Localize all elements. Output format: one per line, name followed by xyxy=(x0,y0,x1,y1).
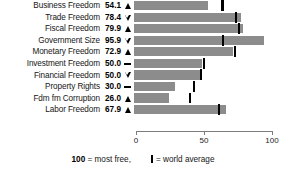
trend-down-icon xyxy=(121,36,134,45)
bar-track xyxy=(134,58,286,70)
chart-rows: Business Freedom54.1Trade Freedom78.4Fis… xyxy=(0,0,286,115)
category-value: 54.1 xyxy=(103,1,121,10)
category-value: 95.9 xyxy=(103,36,121,45)
axis-tick-label: 50 xyxy=(200,136,209,145)
value-bar xyxy=(134,1,208,10)
world-average-tick xyxy=(221,0,223,11)
freedom-index-bar-chart: Business Freedom54.1Trade Freedom78.4Fis… xyxy=(0,0,286,173)
legend-most-free-text: = most free, xyxy=(87,155,130,164)
world-average-marker-icon xyxy=(151,155,153,163)
bar-track xyxy=(134,12,286,24)
bar-track xyxy=(134,0,286,12)
bar-track xyxy=(134,104,286,116)
category-value: 79.9 xyxy=(103,24,121,33)
value-bar xyxy=(134,70,202,79)
world-average-tick xyxy=(193,81,195,92)
value-bar xyxy=(134,59,202,68)
category-value: 72.9 xyxy=(103,47,121,56)
bar-track xyxy=(134,92,286,104)
legend-most-free-value: 100 xyxy=(72,155,86,164)
world-average-tick xyxy=(222,35,224,46)
chart-row: Fdm fm Corruption26.0 xyxy=(0,92,286,104)
world-average-tick xyxy=(218,104,220,115)
trend-glyph xyxy=(125,96,131,102)
world-average-tick xyxy=(200,69,202,80)
chart-row: Fiscal Freedom79.9 xyxy=(0,23,286,35)
category-label: Financial Freedom xyxy=(0,71,103,80)
category-label: Investment Freedom xyxy=(0,59,103,68)
value-bar xyxy=(134,82,175,91)
trend-up-icon xyxy=(121,94,134,103)
category-label: Monetary Freedom xyxy=(0,47,103,56)
trend-down-icon xyxy=(121,71,134,80)
category-value: 78.4 xyxy=(103,13,121,22)
value-bar xyxy=(134,47,233,56)
category-label: Fdm fm Corruption xyxy=(0,94,103,103)
value-bar xyxy=(134,13,241,22)
trend-up-icon xyxy=(121,105,134,114)
chart-row: Labor Freedom67.9 xyxy=(0,104,286,116)
trend-glyph xyxy=(125,38,131,44)
world-average-tick xyxy=(189,93,191,104)
trend-glyph xyxy=(125,72,131,78)
trend-glyph xyxy=(125,15,131,21)
axis-tick xyxy=(136,131,137,135)
bar-track xyxy=(134,81,286,93)
trend-down-icon xyxy=(121,13,134,22)
world-average-tick xyxy=(203,58,205,69)
category-value: 50.0 xyxy=(103,71,121,80)
axis-tick-label: 100 xyxy=(265,136,278,145)
trend-glyph xyxy=(125,3,131,9)
trend-glyph xyxy=(124,63,131,65)
trend-flat-icon xyxy=(121,82,134,91)
trend-up-icon xyxy=(121,1,134,10)
value-bar xyxy=(134,24,243,33)
trend-glyph xyxy=(124,86,131,88)
value-bar xyxy=(134,105,226,114)
chart-row: Financial Freedom50.0 xyxy=(0,69,286,81)
legend-world-average-text: = world average xyxy=(156,155,214,164)
value-bar xyxy=(134,36,264,45)
category-value: 26.0 xyxy=(103,94,121,103)
category-label: Government Size xyxy=(0,36,103,45)
category-label: Trade Freedom xyxy=(0,13,103,22)
chart-row: Business Freedom54.1 xyxy=(0,0,286,12)
trend-flat-icon xyxy=(121,59,134,68)
trend-glyph xyxy=(125,49,131,55)
bar-track xyxy=(134,46,286,58)
category-value: 67.9 xyxy=(103,105,121,114)
chart-row: Monetary Freedom72.9 xyxy=(0,46,286,58)
category-label: Business Freedom xyxy=(0,1,103,10)
trend-glyph xyxy=(125,107,131,113)
bar-track xyxy=(134,23,286,35)
trend-up-icon xyxy=(121,24,134,33)
value-bar xyxy=(134,93,169,102)
chart-legend: 100 = most free, = world average xyxy=(0,155,286,165)
category-label: Fiscal Freedom xyxy=(0,24,103,33)
axis-tick-label: 0 xyxy=(134,136,138,145)
category-label: Property Rights xyxy=(0,82,103,91)
bar-track xyxy=(134,69,286,81)
chart-row: Property Rights30.0 xyxy=(0,81,286,93)
chart-row: Investment Freedom50.0 xyxy=(0,58,286,70)
trend-up-icon xyxy=(121,47,134,56)
chart-row: Government Size95.9 xyxy=(0,35,286,47)
axis-tick xyxy=(204,131,205,135)
bar-track xyxy=(134,35,286,47)
world-average-tick xyxy=(234,46,236,57)
trend-glyph xyxy=(125,26,131,32)
world-average-tick xyxy=(235,12,237,23)
category-label: Labor Freedom xyxy=(0,105,103,114)
world-average-tick xyxy=(238,23,240,34)
category-value: 50.0 xyxy=(103,59,121,68)
axis-tick xyxy=(272,131,273,135)
chart-row: Trade Freedom78.4 xyxy=(0,12,286,24)
category-value: 30.0 xyxy=(103,82,121,91)
